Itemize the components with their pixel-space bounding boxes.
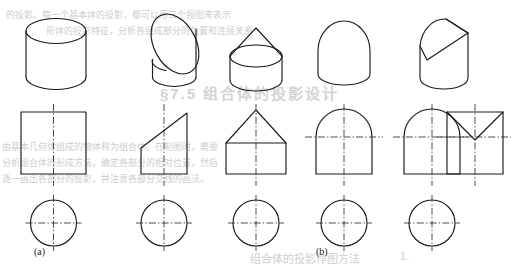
column-v-notched-cylinder [404, 19, 511, 251]
pictorial-cone-on-cylinder [230, 28, 282, 91]
front-view-dome-second [393, 104, 471, 186]
top-view-circle [136, 195, 192, 251]
front-view-rectangle [21, 104, 86, 186]
caption-a: (a) [34, 246, 45, 257]
figure-svg [0, 0, 513, 273]
front-view-dome [305, 104, 383, 186]
pictorial-v-notched-cylinder [420, 19, 468, 89]
pictorial-oblique-cut-cylinder [141, 6, 208, 87]
top-view-circle [404, 195, 460, 251]
top-view-circle [228, 195, 284, 251]
technical-drawing-figure [0, 0, 513, 273]
top-view-circle [26, 195, 82, 251]
front-view-pentagon-house [226, 104, 286, 186]
column-plain-cylinder [21, 19, 86, 252]
column-cone-topped-cylinder [226, 28, 286, 251]
column-obliquely-cut-cylinder [136, 6, 209, 251]
caption-b: (b) [316, 246, 328, 257]
top-view-circle [316, 195, 372, 251]
column-dome-topped-cylinder [305, 21, 383, 251]
front-view-slanted-trapezoid [141, 104, 187, 186]
pictorial-hemisphere-on-cylinder [318, 21, 370, 85]
pictorial-cylinder [26, 19, 86, 90]
